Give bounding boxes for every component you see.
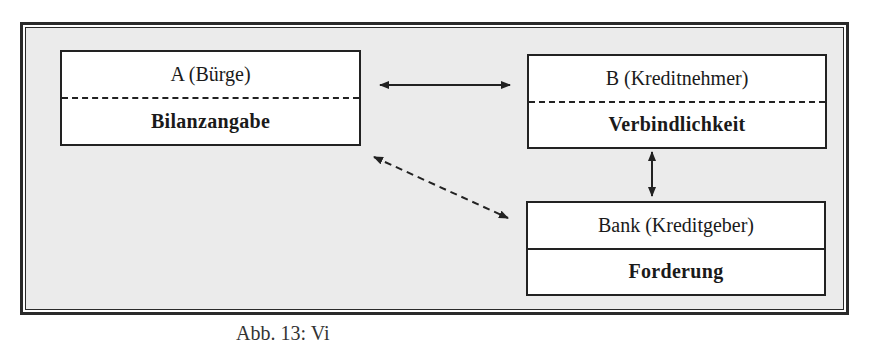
figure-caption: Abb. 13: Vi — [236, 322, 329, 344]
arrow-a-bank-dashed-icon — [374, 157, 508, 218]
